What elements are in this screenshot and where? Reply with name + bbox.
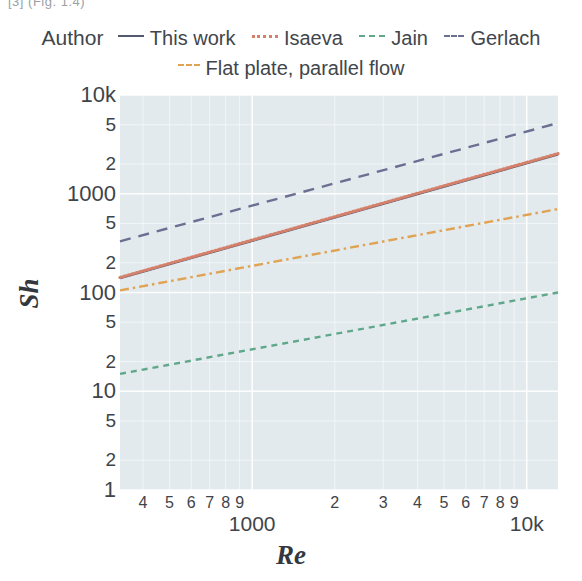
x-tick-label: 5	[165, 494, 174, 512]
y-axis-label: Sh	[14, 278, 45, 308]
y-tick-label: 5	[46, 212, 116, 234]
x-tick-label: 2	[330, 494, 339, 512]
x-tick-label-major: 1000	[229, 512, 276, 536]
y-tick-label: 5	[46, 311, 116, 333]
x-tick-label: 8	[221, 494, 230, 512]
y-tick-label: 2	[46, 153, 116, 175]
x-tick-label: 8	[496, 494, 505, 512]
x-tick-label-major: 10k	[510, 512, 544, 536]
x-tick-label: 7	[480, 494, 489, 512]
y-tick-label: 1000	[46, 181, 116, 207]
y-tick-label: 2	[46, 449, 116, 471]
chart-root: [3] (Fig. 1.4) Author This work Isaeva J…	[0, 0, 582, 581]
y-tick-label: 2	[46, 351, 116, 373]
x-tick-label: 9	[510, 494, 519, 512]
x-tick-label: 6	[187, 494, 196, 512]
x-axis-label: Re	[0, 540, 582, 571]
x-tick-label: 6	[461, 494, 470, 512]
x-tick-label: 5	[440, 494, 449, 512]
x-tick-label: 4	[413, 494, 422, 512]
x-axis-ticks: 45678923456789100010k	[0, 494, 582, 544]
x-tick-label: 3	[379, 494, 388, 512]
y-tick-label: 2	[46, 252, 116, 274]
x-tick-label: 4	[138, 494, 147, 512]
x-tick-label: 9	[235, 494, 244, 512]
y-tick-label: 5	[46, 410, 116, 432]
y-tick-label: 10	[46, 378, 116, 404]
y-tick-label: 5	[46, 114, 116, 136]
y-tick-label: 100	[46, 280, 116, 306]
y-tick-label: 10k	[46, 82, 116, 108]
x-tick-label: 7	[205, 494, 214, 512]
